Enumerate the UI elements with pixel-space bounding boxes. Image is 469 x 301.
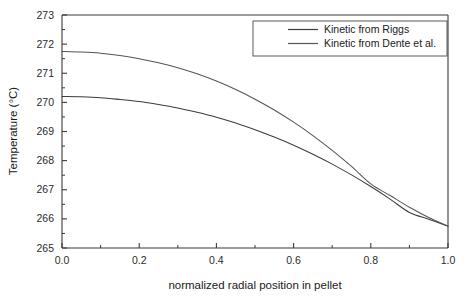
y-tick-label: 270 bbox=[36, 96, 54, 108]
x-tick-label: 0.4 bbox=[209, 254, 224, 266]
x-tick-label: 0.0 bbox=[55, 254, 70, 266]
x-tick-label: 0.8 bbox=[363, 254, 378, 266]
y-tick-label: 268 bbox=[36, 154, 54, 166]
chart-canvas: 265266267268269270271272273 0.00.20.40.6… bbox=[0, 0, 469, 301]
x-tick-label: 0.2 bbox=[132, 254, 147, 266]
x-tick-label: 0.6 bbox=[286, 254, 301, 266]
legend-label-2: Kinetic from Dente et al. bbox=[324, 37, 436, 49]
y-tick-label: 265 bbox=[36, 242, 54, 254]
y-tick-label: 271 bbox=[36, 67, 54, 79]
legend-label-1: Kinetic from Riggs bbox=[324, 23, 409, 35]
x-axis-title: normalized radial position in pellet bbox=[168, 279, 342, 291]
y-tick-label: 272 bbox=[36, 38, 54, 50]
chart-figure: 265266267268269270271272273 0.00.20.40.6… bbox=[0, 0, 469, 301]
y-axis-title: Temperature (°C) bbox=[7, 87, 19, 175]
y-tick-label: 266 bbox=[36, 212, 54, 224]
y-tick-label: 269 bbox=[36, 125, 54, 137]
chart-legend: Kinetic from RiggsKinetic from Dente et … bbox=[253, 21, 447, 56]
y-tick-label: 273 bbox=[36, 9, 54, 21]
y-tick-label: 267 bbox=[36, 183, 54, 195]
x-tick-label: 1.0 bbox=[441, 254, 456, 266]
